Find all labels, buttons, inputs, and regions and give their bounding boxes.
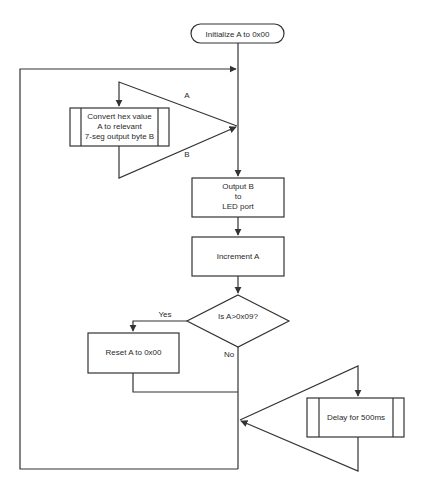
- increment-label: Increment A: [217, 252, 260, 261]
- convert-label-line-1: Convert hex value: [87, 112, 152, 121]
- start-terminal: Initialize A to 0x00: [191, 24, 284, 43]
- edge-label-no: No: [224, 350, 235, 359]
- delay-label: Delay for 500ms: [327, 413, 385, 422]
- output-label-line-1: Output B: [222, 182, 254, 191]
- convert-subprocess-box: Convert hex value A to relevant 7-seg ou…: [70, 108, 169, 146]
- edge-label-yes: Yes: [158, 310, 171, 319]
- output-label-line-3: LED port: [222, 202, 254, 211]
- increment-process-box: Increment A: [192, 237, 284, 276]
- delay-subprocess-box: Delay for 500ms: [307, 398, 404, 437]
- decision-diamond: Is A>0x09?: [187, 295, 289, 347]
- edge-label-b: B: [184, 150, 189, 159]
- reset-label: Reset A to 0x00: [105, 348, 162, 357]
- edge-label-a: A: [184, 91, 190, 100]
- output-process-box: Output B to LED port: [192, 178, 284, 217]
- flowchart-canvas: Initialize A to 0x00 A B Convert hex val…: [0, 0, 422, 484]
- convert-label-line-3: 7-seg output byte B: [85, 132, 154, 141]
- yes-branch-line: [133, 321, 187, 331]
- reset-merge-line: [133, 373, 238, 392]
- start-terminal-label: Initialize A to 0x00: [205, 30, 270, 39]
- reset-process-box: Reset A to 0x00: [88, 333, 179, 373]
- decision-label: Is A>0x09?: [218, 312, 258, 321]
- output-label-line-2: to: [235, 192, 242, 201]
- convert-label-line-2: A to relevant: [97, 122, 142, 131]
